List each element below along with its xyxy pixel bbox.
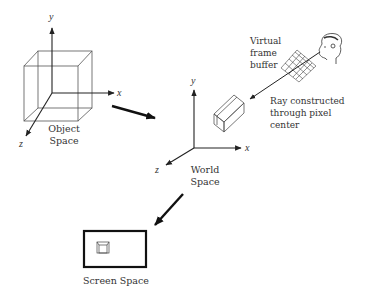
object-y-label: y	[48, 11, 54, 22]
viewer-head-icon	[319, 33, 341, 64]
ray-label-3: center	[270, 120, 300, 130]
world-x-label: x	[244, 142, 250, 153]
world-y-label: y	[190, 75, 196, 86]
screen-space-label: Screen Space	[83, 275, 149, 286]
screen-object-icon	[97, 242, 109, 253]
ray-label-2: through pixel	[270, 108, 331, 118]
world-to-screen-arrow	[155, 194, 183, 225]
world-space-group: y x z World Space	[154, 75, 250, 187]
screen-frame	[84, 231, 146, 267]
diagram-canvas: y x z Object Space y x z World Space	[0, 0, 367, 292]
world-space-label-2: Space	[190, 176, 220, 187]
object-to-world-arrow	[112, 106, 155, 118]
screen-space-group: Screen Space	[83, 231, 149, 286]
world-axes	[166, 90, 241, 165]
ray-label-1: Ray constructed	[270, 96, 345, 106]
frame-buffer-label-3: buffer	[250, 60, 278, 70]
object-space-group: y x z Object Space	[18, 11, 122, 149]
object-space-label-1: Object	[48, 123, 80, 134]
frame-buffer-label-1: Virtual	[249, 36, 281, 46]
object-space-label-2: Space	[49, 135, 79, 146]
world-object-box	[214, 95, 244, 132]
object-axes	[26, 28, 114, 136]
world-z-axis	[166, 148, 194, 165]
frame-buffer-label-2: frame	[250, 48, 277, 58]
object-z-label: z	[18, 138, 23, 149]
object-x-label: x	[116, 87, 122, 98]
world-z-label: z	[154, 164, 159, 175]
object-cube	[24, 51, 92, 121]
world-space-label-1: World	[191, 164, 220, 175]
